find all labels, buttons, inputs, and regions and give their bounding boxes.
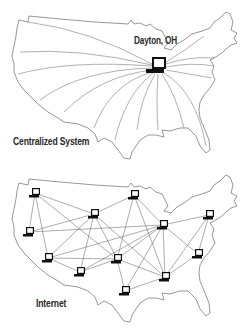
computer-icon: [42, 253, 53, 263]
network-link: [80, 214, 94, 272]
computer-icon: [146, 57, 166, 73]
network-links: [29, 193, 209, 291]
network-link: [48, 258, 117, 259]
internet-caption: Internet: [36, 297, 66, 309]
computer-icon: [203, 210, 214, 220]
network-link: [35, 193, 94, 214]
network-link: [80, 225, 163, 272]
network-link: [163, 215, 209, 225]
computer-icon: [128, 190, 139, 200]
network-link: [94, 214, 165, 277]
network-link: [29, 193, 35, 232]
computer-icon: [29, 188, 40, 198]
computer-icon: [157, 220, 168, 230]
connection-rays: [18, 22, 214, 146]
network-link: [134, 195, 165, 277]
network-link: [163, 225, 198, 254]
computer-icon: [119, 286, 130, 296]
centralized-system-panel: Dayton, OH Centralized System: [0, 0, 246, 167]
network-link: [165, 215, 209, 277]
centralized-system-caption: Centralized System: [13, 135, 89, 147]
computer-icon: [88, 209, 99, 219]
computer-icon: [23, 227, 34, 237]
network-link: [48, 258, 80, 272]
network-link: [35, 193, 48, 258]
hub-location-label: Dayton, OH: [134, 34, 177, 46]
network-link: [35, 193, 117, 259]
network-link: [80, 259, 117, 272]
internet-panel: Internet: [0, 167, 246, 334]
network-link: [125, 225, 163, 291]
network-link: [94, 214, 117, 259]
network-link: [163, 225, 165, 277]
network-link: [198, 215, 209, 254]
network-link: [117, 259, 165, 277]
network-nodes: [23, 188, 214, 296]
computer-icon: [74, 267, 85, 277]
network-link: [134, 195, 163, 225]
